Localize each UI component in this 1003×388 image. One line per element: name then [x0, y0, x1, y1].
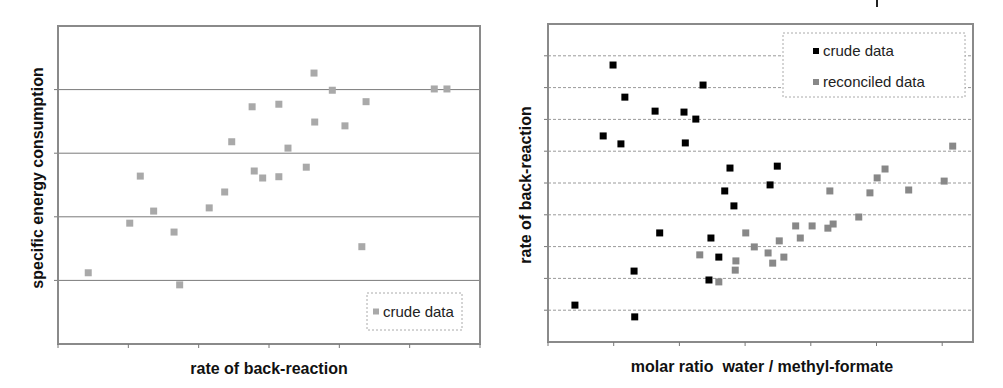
data-point-marker — [171, 229, 178, 236]
data-point-marker — [705, 276, 712, 283]
data-point-marker — [776, 237, 783, 244]
data-point-marker — [696, 251, 703, 258]
data-point-marker — [206, 204, 213, 211]
legend-marker-icon — [373, 309, 379, 315]
data-point-marker — [882, 166, 889, 173]
data-point-marker — [692, 116, 699, 123]
data-point-marker — [826, 187, 833, 194]
data-point-marker — [600, 132, 607, 139]
data-point-marker — [150, 208, 157, 215]
data-point-marker — [874, 174, 881, 181]
data-point-marker — [363, 98, 370, 105]
data-point-marker — [275, 101, 282, 108]
scatter-chart-back-reaction: crude datareconciled datarate of back-re… — [500, 0, 1003, 388]
data-point-marker — [228, 138, 235, 145]
data-point-marker — [610, 62, 617, 69]
legend-label: crude data — [383, 303, 455, 320]
data-point-marker — [431, 85, 438, 92]
data-point-marker — [176, 281, 183, 288]
series-crude-data — [571, 62, 780, 321]
data-point-marker — [780, 254, 787, 261]
data-point-marker — [721, 187, 728, 194]
data-point-marker — [742, 229, 749, 236]
legend-label: crude data — [823, 42, 895, 59]
data-point-marker — [680, 109, 687, 116]
data-point-marker — [774, 163, 781, 170]
data-point-marker — [797, 235, 804, 242]
data-point-marker — [730, 202, 737, 209]
data-point-marker — [715, 254, 722, 261]
series-reconciled-data — [696, 143, 956, 286]
data-point-marker — [617, 140, 624, 147]
x-axis-title: molar ratio water / methyl-formate — [631, 358, 893, 375]
data-point-marker — [732, 257, 739, 264]
data-point-marker — [303, 164, 310, 171]
data-point-marker — [341, 122, 348, 129]
data-point-marker — [311, 119, 318, 126]
series-crude-data — [85, 70, 451, 289]
data-point-marker — [311, 70, 318, 77]
data-point-marker — [631, 268, 638, 275]
data-point-marker — [137, 173, 144, 180]
data-point-marker — [769, 260, 776, 267]
chart-canvas: crude datareconciled datarate of back-re… — [500, 0, 1003, 388]
data-point-marker — [221, 188, 228, 195]
data-point-marker — [732, 267, 739, 274]
data-point-marker — [284, 145, 291, 152]
data-point-marker — [571, 302, 578, 309]
data-point-marker — [941, 178, 948, 185]
data-point-marker — [249, 103, 256, 110]
data-point-marker — [656, 229, 663, 236]
data-point-marker — [275, 173, 282, 180]
data-point-marker — [700, 82, 707, 89]
legend: crude data — [367, 293, 462, 330]
data-point-marker — [358, 243, 365, 250]
data-point-marker — [652, 108, 659, 115]
scatter-chart-energy-consumption: crude dataspecific energy consumptionrat… — [0, 0, 500, 388]
data-point-marker — [631, 313, 638, 320]
data-point-marker — [707, 235, 714, 242]
data-point-marker — [259, 175, 266, 182]
data-point-marker — [751, 243, 758, 250]
data-point-marker — [726, 165, 733, 172]
y-axis-title: rate of back-reaction — [517, 106, 534, 263]
data-point-marker — [809, 222, 816, 229]
data-point-marker — [855, 214, 862, 221]
data-point-marker — [715, 278, 722, 285]
legend: crude datareconciled data — [783, 33, 965, 97]
data-point-marker — [792, 222, 799, 229]
y-axis-title: specific energy consumption — [29, 67, 46, 288]
x-axis-title: rate of back-reaction — [190, 360, 347, 377]
data-point-marker — [830, 221, 837, 228]
data-point-marker — [765, 249, 772, 256]
legend-marker-icon — [813, 79, 819, 85]
data-point-marker — [767, 181, 774, 188]
data-point-marker — [126, 220, 133, 227]
data-point-marker — [866, 189, 873, 196]
data-point-marker — [621, 94, 628, 101]
data-point-marker — [85, 269, 92, 276]
chart-canvas: crude dataspecific energy consumptionrat… — [0, 0, 500, 388]
legend-marker-icon — [813, 48, 819, 54]
data-point-marker — [443, 85, 450, 92]
data-point-marker — [949, 143, 956, 150]
data-point-marker — [905, 186, 912, 193]
data-point-marker — [329, 87, 336, 94]
data-point-marker — [251, 168, 258, 175]
data-point-marker — [682, 139, 689, 146]
legend-label: reconciled data — [823, 73, 925, 90]
